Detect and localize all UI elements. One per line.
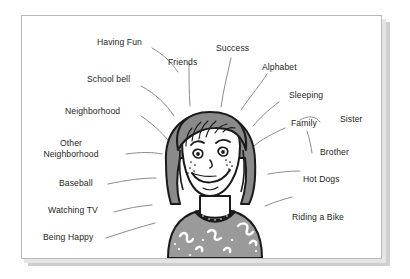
label-baseball: Baseball xyxy=(59,178,93,189)
label-friends: Friends xyxy=(168,57,197,68)
label-having-fun: Having Fun xyxy=(97,37,142,48)
label-neighborhood: Neighborhood xyxy=(65,106,120,117)
label-success: Success xyxy=(216,43,249,54)
girl-illustration xyxy=(166,112,262,258)
figure-container: Having Fun Friends Success Alphabet Scho… xyxy=(0,0,410,279)
pupil-right xyxy=(221,150,225,154)
label-other-neighborhood: Other Neighborhood xyxy=(33,138,109,159)
label-being-happy: Being Happy xyxy=(43,232,93,243)
label-sleeping: Sleeping xyxy=(289,90,323,101)
neck xyxy=(200,196,230,218)
label-family: Family xyxy=(291,118,317,129)
label-school-bell: School bell xyxy=(87,74,130,85)
pupil-left xyxy=(196,152,200,156)
label-sister: Sister xyxy=(340,114,363,125)
label-hot-dogs: Hot Dogs xyxy=(303,174,340,185)
label-watching-tv: Watching TV xyxy=(48,205,98,216)
label-riding-a-bike: Riding a Bike xyxy=(292,212,344,223)
label-brother: Brother xyxy=(320,147,349,158)
label-alphabet: Alphabet xyxy=(262,62,297,73)
